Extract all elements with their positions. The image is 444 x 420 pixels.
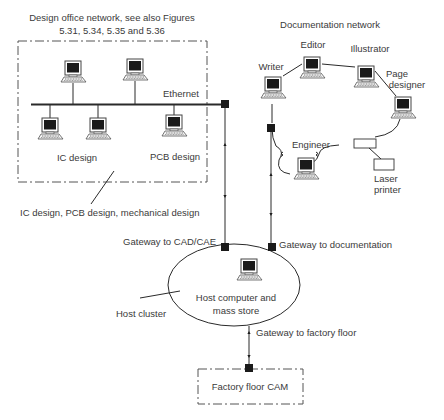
host-computer-icon: [237, 259, 262, 280]
host-cluster-leader: [140, 291, 180, 298]
documentation-network: Documentation network Writer Editor Illu…: [258, 19, 425, 195]
design-office-title-line2: 5.31, 5.34, 5.35 and 5.36: [59, 25, 165, 36]
gateway-factory-label: Gateway to factory floor: [256, 327, 356, 338]
workstation-icon: [162, 115, 187, 136]
callout-leader: [91, 171, 114, 204]
host-label-line1: Host computer and: [196, 292, 276, 303]
gateway-cad-label: Gateway to CAD/CAE: [123, 236, 216, 247]
illustrator-label: Illustrator: [350, 43, 389, 54]
factory-floor: Factory floor CAM: [198, 364, 303, 404]
page-designer-label-line2: designer: [389, 79, 425, 90]
host-cluster: Gateway to CAD/CAE Gateway to documentat…: [116, 236, 392, 368]
design-office-network: Design office network, see also Figures …: [18, 12, 229, 218]
design-office-title-line1: Design office network, see also Figures: [29, 12, 195, 23]
print-server-box: [354, 139, 376, 148]
network-diagram: Design office network, see also Figures …: [0, 0, 444, 420]
workstation-icon-illustrator: [354, 66, 379, 87]
documentation-title: Documentation network: [280, 19, 380, 30]
documentation-node: [267, 124, 275, 132]
gateway-documentation-node: [268, 243, 276, 251]
cad-gateway-link: [223, 108, 226, 247]
workstation-icon: [123, 59, 148, 80]
workstation-icon-writer: [261, 77, 286, 98]
laser-printer-label-line1: Laser: [374, 173, 398, 184]
factory-gateway-node: [245, 364, 253, 372]
gateway-documentation-label: Gateway to documentation: [279, 239, 392, 250]
workstation-icon-editor: [300, 57, 325, 78]
gateway-cad-node: [221, 243, 229, 251]
factory-floor-label: Factory floor CAM: [212, 381, 289, 392]
ethernet-label: Ethernet: [163, 88, 199, 99]
workstation-icon: [86, 118, 111, 139]
editor-label: Editor: [301, 39, 326, 50]
ic-design-label: IC design: [57, 152, 97, 163]
host-label-line2: mass store: [213, 305, 259, 316]
workstation-icon: [61, 61, 86, 82]
design-callout-label: IC design, PCB design, mechanical design: [20, 207, 200, 218]
laser-printer-label-line2: printer: [374, 184, 401, 195]
ethernet-gateway-node: [221, 100, 229, 108]
writer-label: Writer: [258, 61, 283, 72]
documentation-gateway-link: [269, 127, 272, 247]
page-designer-label-line1: Page: [386, 68, 408, 79]
laser-printer-icon: [374, 159, 394, 170]
host-cluster-label: Host cluster: [116, 308, 166, 319]
engineer-label: Engineer: [292, 139, 330, 150]
pcb-design-label: PCB design: [150, 151, 200, 162]
workstation-icon-page-designer: [391, 97, 416, 118]
workstation-icon: [38, 118, 63, 139]
